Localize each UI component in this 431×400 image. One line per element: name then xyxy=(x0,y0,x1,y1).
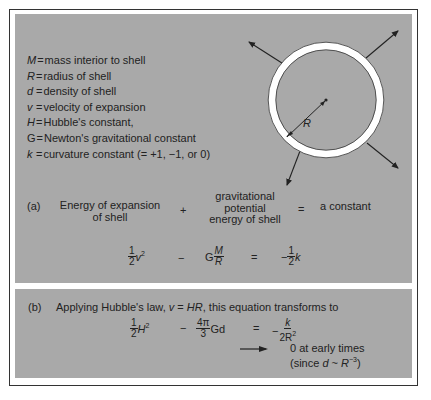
denominator: 2 xyxy=(287,257,295,267)
variable: HR xyxy=(187,301,203,313)
equation-b-minus: − xyxy=(180,322,186,334)
equals-sign: = xyxy=(298,203,304,215)
exponent: 2 xyxy=(141,250,145,257)
term-line: gravitational xyxy=(200,191,290,203)
definition-text: curvature constant (= +1, −1, or 0) xyxy=(43,148,210,160)
denominator: R xyxy=(214,257,223,267)
exponent: 2 xyxy=(146,322,150,329)
intro-text: Applying Hubble's law, xyxy=(56,301,169,313)
expansion-arrow-upper-left-icon xyxy=(249,42,285,65)
equation-a-kinetic: 12v2 xyxy=(128,246,145,267)
early-times-note: 0 at early times (since d ~ R−3) xyxy=(290,342,365,369)
symbol: k xyxy=(27,147,35,163)
part-b-label: (b) xyxy=(28,301,41,313)
equation-a-minus: − xyxy=(178,252,184,264)
variable: k xyxy=(295,251,301,263)
kinetic-energy-term: Energy of expansion of shell xyxy=(55,199,165,223)
denominator: 2R2 xyxy=(278,329,297,343)
plus-sign: + xyxy=(180,204,186,216)
symbol: d xyxy=(27,84,35,100)
note-line: 0 at early times xyxy=(290,342,365,354)
definition-text: Hubble's constant, xyxy=(43,116,133,128)
equals: = xyxy=(174,301,187,313)
symbol: H xyxy=(27,115,35,131)
equals: = xyxy=(36,70,42,82)
part-b-intro: Applying Hubble's law, v = HR, this equa… xyxy=(56,301,338,313)
radius-label: R xyxy=(303,117,311,129)
symbol: M xyxy=(27,53,36,69)
definition-velocity: v=velocity of expansion xyxy=(27,100,210,116)
constant-term: a constant xyxy=(320,200,371,212)
definitions-list: M=mass interior to shell R=radius of she… xyxy=(27,53,210,162)
part-a-label: (a) xyxy=(27,200,40,212)
density-term: Gd xyxy=(210,323,225,335)
definition-text: mass interior to shell xyxy=(45,54,146,66)
exponent: −3 xyxy=(349,356,357,363)
equation-b-potential: 4π3Gd xyxy=(196,318,225,339)
variable: H xyxy=(138,323,146,335)
note-text: ) xyxy=(357,357,361,369)
equation-a-rhs: −12k xyxy=(281,246,301,267)
term-line: of shell xyxy=(55,211,165,223)
expansion-arrow-lower-left-icon xyxy=(287,151,300,185)
definition-gravitational-constant: G=Newton's gravitational constant xyxy=(27,131,210,147)
expansion-arrow-upper-right-icon xyxy=(366,31,398,58)
equals: = xyxy=(36,101,42,113)
term-line: energy of shell xyxy=(200,214,290,226)
definition-text: density of shell xyxy=(43,85,116,97)
term-line: Energy of expansion xyxy=(55,199,165,211)
variable: R xyxy=(341,357,349,369)
definition-text: velocity of expansion xyxy=(43,101,145,113)
equals: = xyxy=(36,116,42,128)
equation-a-potential: GMR xyxy=(205,246,224,267)
definition-text: Newton's gravitational constant xyxy=(44,132,196,144)
equals: = xyxy=(37,132,43,144)
definition-radius: R=radius of shell xyxy=(27,69,210,85)
definition-text: radius of shell xyxy=(43,70,111,82)
intro-text: , this equation transforms to xyxy=(203,301,339,313)
symbol: v xyxy=(27,100,35,116)
definition-hubble: H=Hubble's constant, xyxy=(27,115,210,131)
symbol: G xyxy=(27,131,36,147)
expansion-arrow-lower-right-icon xyxy=(367,143,398,168)
definition-mass: M=mass interior to shell xyxy=(27,53,210,69)
definition-curvature: k=curvature constant (= +1, −1, or 0) xyxy=(27,147,210,163)
equals: = xyxy=(37,54,43,66)
numerator: k xyxy=(284,318,291,329)
proportional-sign: ~ xyxy=(329,357,342,369)
denominator: 2 xyxy=(130,329,138,339)
gravitational-constant: G xyxy=(205,251,214,263)
equation-b-equals: = xyxy=(253,322,259,334)
exponent: 2 xyxy=(292,330,296,337)
symbol: R xyxy=(27,69,35,85)
potential-energy-term: gravitational potential energy of shell xyxy=(200,191,290,226)
denominator: 2 xyxy=(128,257,136,267)
equation-a-equals: = xyxy=(251,251,257,263)
equals: = xyxy=(36,148,42,160)
note-text: (since xyxy=(290,357,322,369)
definition-density: d=density of shell xyxy=(27,84,210,100)
denominator: 3 xyxy=(199,329,207,339)
note-line: (since d ~ R−3) xyxy=(290,354,365,369)
equals: = xyxy=(36,85,42,97)
equation-b-kinetic: 12H2 xyxy=(130,318,149,339)
equation-b-rhs: −k2R2 xyxy=(272,318,297,343)
